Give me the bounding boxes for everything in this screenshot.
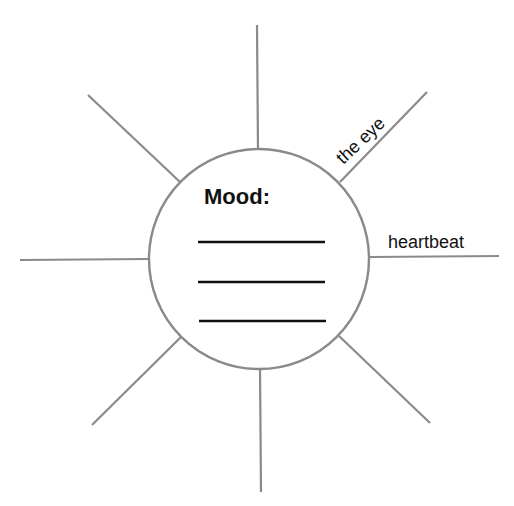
spoke-lower-right xyxy=(339,336,430,423)
spoke-left xyxy=(20,259,149,260)
spoke-bottom xyxy=(260,367,261,492)
spoke-label-heartbeat: heartbeat xyxy=(388,232,464,252)
spoke-top xyxy=(257,25,258,151)
spider-diagram: Mood: the eye heartbeat xyxy=(0,0,514,506)
spoke-upper-left xyxy=(88,95,180,182)
spoke-lower-left xyxy=(92,337,181,425)
center-circle xyxy=(149,149,369,369)
spoke-right xyxy=(370,256,499,257)
hub-title: Mood: xyxy=(204,184,270,209)
